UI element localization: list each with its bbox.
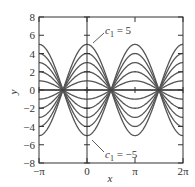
y-tick-label: −4	[23, 121, 35, 133]
annotation-leader-line	[93, 33, 104, 43]
annotation-label: c1 = −5	[105, 148, 138, 163]
y-tick-label: 8	[30, 11, 36, 23]
y-tick-label: 2	[30, 66, 36, 78]
y-tick-label: −8	[23, 157, 35, 169]
chart: −π0π2π 86420−2−4−6−8 x y c1 = 5c1 = −5	[0, 0, 195, 187]
y-tick-label: −2	[23, 102, 35, 114]
annotations: c1 = 5c1 = −5	[92, 24, 138, 163]
x-tick-label: π	[132, 165, 138, 177]
y-axis-label: y	[7, 89, 19, 95]
x-tick-label: 2π	[177, 165, 189, 177]
x-axis-label: x	[107, 172, 113, 184]
y-tick-label: 4	[30, 48, 36, 60]
annotation-leader-line	[92, 140, 104, 152]
x-tick-label: 0	[84, 165, 90, 177]
annotation-label: c1 = 5	[105, 24, 132, 39]
y-tick-label: 0	[30, 84, 36, 96]
y-tick-label: 6	[30, 29, 36, 41]
y-tick-label: −6	[23, 139, 35, 151]
